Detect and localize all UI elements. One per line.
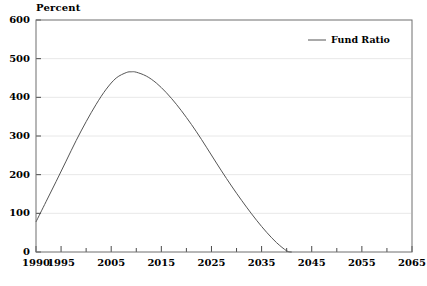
y-axis-tick-label: 100 — [0, 208, 30, 218]
x-axis-tick-label: 1995 — [47, 258, 75, 268]
x-axis-tick-label: 2065 — [398, 258, 426, 268]
gridlines — [37, 59, 411, 214]
y-axis-tick-label: 0 — [0, 247, 30, 257]
y-axis-tick-label: 600 — [0, 15, 30, 25]
y-axis-tick-label: 200 — [0, 170, 30, 180]
x-axis-tick-label: 2015 — [147, 258, 175, 268]
y-axis-tick-label: 300 — [0, 131, 30, 141]
x-axis-tick-label: 2055 — [348, 258, 376, 268]
chart-container: Percent 0100200300400500600 199019952005… — [0, 0, 427, 286]
x-axis-tick-label: 2005 — [97, 258, 125, 268]
x-axis-tick-label: 2025 — [198, 258, 226, 268]
data-series-group — [36, 72, 292, 252]
legend-entry-fund-ratio: Fund Ratio — [331, 35, 390, 45]
y-axis-tick-label: 400 — [0, 92, 30, 102]
x-axis-tick-label: 2035 — [248, 258, 276, 268]
series-line-fund-ratio — [36, 72, 292, 252]
y-axis-tick-label: 500 — [0, 54, 30, 64]
x-axis-tick-label: 2045 — [298, 258, 326, 268]
x-axis-tick-label: 1990 — [22, 258, 50, 268]
